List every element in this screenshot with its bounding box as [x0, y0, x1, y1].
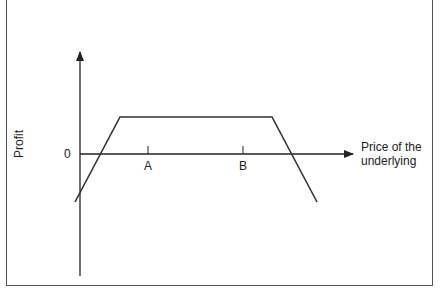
origin-label: 0 — [64, 147, 71, 161]
y-axis-label: Profit — [12, 130, 26, 158]
tick-label-a: A — [144, 159, 152, 173]
x-axis-label: Price of the underlying — [361, 140, 422, 168]
payoff-line — [75, 117, 317, 202]
x-axis-label-line1: Price of the — [361, 140, 422, 154]
x-axis-label-line2: underlying — [361, 154, 422, 168]
tick-label-b: B — [239, 159, 247, 173]
